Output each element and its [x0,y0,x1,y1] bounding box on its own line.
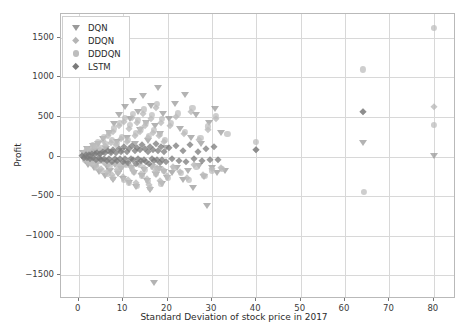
x-tick [78,298,79,301]
data-point [361,189,367,195]
ddqn-marker-icon [68,34,84,47]
y-axis-label: Profit [13,143,23,166]
x-tick [211,298,212,301]
data-point [129,98,137,104]
x-tick [433,298,434,301]
y-tick [57,76,60,77]
data-point [186,176,192,182]
x-axis-label: Standard Deviation of stock price in 201… [0,312,468,322]
legend-label: LSTM [88,62,111,72]
data-point [202,145,210,153]
x-tick [344,298,345,301]
data-point [211,106,219,112]
y-tick-label: −500 [31,190,54,200]
legend-item-ddqn: DDQN [68,34,121,47]
data-point [360,66,366,72]
data-point [431,122,437,128]
data-point [154,85,162,91]
x-tick [300,298,301,301]
data-point [189,105,195,111]
y-tick [57,235,60,236]
data-point [430,153,438,159]
y-tick [57,156,60,157]
data-point [253,139,259,145]
legend-label: DDDQN [88,49,121,59]
data-point [252,146,260,154]
data-point [175,110,181,116]
data-point [127,122,133,128]
data-point [186,141,194,149]
y-tick-label: 1000 [32,71,54,81]
data-point [224,131,230,137]
data-point [130,111,136,117]
data-point [154,101,160,107]
data-point [111,125,117,131]
y-tick-label: 0 [49,151,54,161]
dqn-marker-icon [68,21,84,34]
legend-item-dddqn: DDDQN [68,47,121,60]
data-point [179,147,187,155]
data-point [150,280,158,286]
data-point [359,140,367,146]
data-point [206,156,214,164]
y-tick [57,274,60,275]
y-tick [57,116,60,117]
x-tick [255,298,256,301]
legend-item-dqn: DQN [68,21,121,34]
data-point [182,158,190,166]
data-point [171,101,179,107]
data-point [172,142,180,150]
data-point [178,170,184,176]
y-tick-label: −1000 [25,230,54,240]
legend: DQN DDQN DDDQN LSTM [62,16,130,78]
data-point [359,108,367,116]
data-point [194,148,202,156]
data-point [189,185,197,191]
data-point [190,155,198,163]
data-point [210,143,218,151]
data-point [214,156,222,164]
data-point [184,168,192,174]
legend-label: DDQN [88,36,114,46]
data-point [203,203,211,209]
legend-label: DQN [88,23,108,33]
y-tick-label: 1500 [32,32,54,42]
x-tick [122,298,123,301]
y-tick-label: −1500 [25,269,54,279]
scatter-chart-figure: 01020304050607080−1500−1000−500050010001… [0,0,468,333]
data-point [181,92,189,98]
data-point [431,24,437,30]
y-tick [57,37,60,38]
data-point [187,135,195,141]
x-tick [388,298,389,301]
x-tick [167,298,168,301]
data-point [141,106,147,112]
data-point [121,104,129,110]
data-point [139,93,147,99]
dddqn-marker-icon [68,47,84,60]
data-point [430,103,438,111]
y-tick-label: 500 [38,111,54,121]
y-tick [57,195,60,196]
legend-item-lstm: LSTM [68,60,121,73]
lstm-marker-icon [68,60,84,73]
